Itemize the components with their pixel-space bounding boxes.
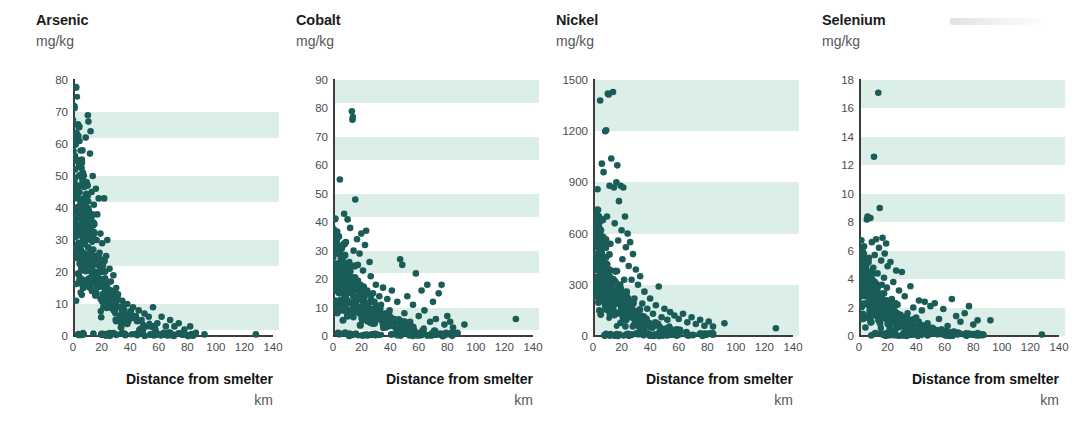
data-point	[80, 170, 87, 177]
data-point	[397, 256, 404, 263]
data-point	[418, 287, 425, 294]
data-point	[450, 324, 457, 331]
data-point	[921, 299, 928, 306]
data-point	[623, 244, 630, 251]
data-point	[108, 278, 115, 285]
y-tick-label: 50	[55, 170, 68, 182]
y-axis-ticks: 01020304050607080	[0, 0, 68, 431]
data-point	[93, 186, 100, 193]
data-point	[639, 300, 646, 307]
scatter-points	[73, 80, 287, 346]
data-point	[147, 321, 153, 327]
data-point	[629, 323, 636, 330]
data-point	[76, 272, 83, 279]
data-point	[74, 192, 81, 199]
data-point	[616, 198, 623, 205]
data-point	[619, 312, 626, 319]
data-point	[78, 262, 85, 269]
data-point	[170, 332, 177, 339]
data-point	[424, 282, 431, 289]
data-point	[966, 303, 973, 310]
data-point	[871, 252, 878, 259]
data-point	[878, 257, 885, 264]
data-point	[653, 302, 660, 309]
data-point	[97, 230, 104, 237]
data-point	[127, 310, 134, 317]
data-point	[658, 314, 665, 321]
data-point	[373, 282, 380, 289]
panel-arsenic: Arsenicmg/kg0102030405060708002040608010…	[0, 0, 260, 431]
data-point	[966, 330, 973, 337]
y-tick-label: 2	[848, 302, 854, 314]
data-point	[91, 221, 98, 228]
data-point	[344, 216, 351, 223]
data-point	[703, 332, 709, 338]
data-point	[133, 314, 140, 321]
data-point	[944, 323, 951, 330]
data-point	[435, 290, 442, 297]
data-point	[386, 307, 393, 314]
data-point	[598, 245, 605, 252]
data-point	[359, 313, 366, 320]
y-tick-label: 12	[841, 159, 854, 171]
panel-cobalt: Cobaltmg/kg01020304050607080900204060801…	[260, 0, 520, 431]
data-point	[773, 325, 780, 332]
data-point	[371, 299, 378, 306]
data-point	[90, 330, 97, 337]
data-point	[600, 169, 607, 176]
data-point	[869, 303, 876, 310]
data-point	[341, 210, 348, 217]
data-point	[339, 253, 346, 260]
data-point	[881, 250, 888, 257]
data-point	[367, 273, 374, 280]
data-point	[104, 237, 111, 244]
data-point	[664, 316, 671, 323]
y-tick-label: 40	[315, 216, 328, 228]
data-point	[342, 329, 349, 336]
data-point	[145, 314, 152, 321]
data-point	[874, 270, 881, 277]
data-point	[181, 326, 188, 333]
data-point	[622, 323, 629, 330]
data-point	[98, 282, 105, 289]
data-point	[77, 289, 83, 295]
data-point	[427, 318, 434, 325]
data-point	[382, 313, 389, 320]
data-point	[936, 316, 943, 323]
data-point	[924, 320, 931, 327]
data-point	[370, 290, 377, 297]
data-point	[350, 114, 357, 121]
data-point	[871, 154, 878, 161]
data-point	[363, 331, 370, 338]
data-point	[949, 296, 956, 303]
data-point	[650, 311, 657, 318]
data-point	[618, 285, 624, 291]
data-point	[867, 215, 874, 222]
data-point	[82, 218, 89, 225]
data-point	[919, 331, 925, 337]
data-point	[859, 260, 866, 267]
data-point	[634, 317, 640, 323]
data-point	[890, 279, 897, 286]
data-point	[684, 319, 691, 326]
data-point	[407, 318, 414, 325]
data-point	[89, 173, 96, 180]
data-point	[154, 320, 161, 327]
data-point	[953, 313, 960, 320]
data-point	[614, 323, 620, 329]
data-point	[430, 299, 437, 306]
data-point	[625, 331, 632, 338]
data-point	[631, 295, 638, 302]
data-point	[916, 297, 923, 304]
data-point	[100, 262, 107, 269]
data-point	[109, 294, 116, 301]
data-point	[91, 202, 98, 209]
data-point	[201, 331, 208, 338]
data-point	[910, 304, 917, 311]
data-point	[89, 275, 96, 282]
data-point	[74, 94, 80, 100]
data-point	[364, 287, 371, 294]
data-point	[913, 314, 920, 321]
data-point	[641, 288, 648, 295]
data-point	[346, 259, 353, 266]
